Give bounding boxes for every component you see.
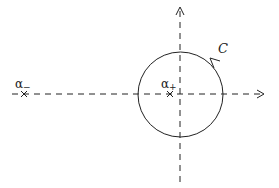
alpha-plus-subscript: + (169, 82, 177, 92)
diagram-canvas: α− α+ C (0, 0, 279, 188)
alpha-plus-symbol: α (161, 77, 169, 91)
alpha-minus-subscript: − (23, 82, 31, 92)
alpha-minus-label: α− (15, 78, 31, 90)
alpha-plus-label: α+ (161, 78, 177, 90)
contour-direction-arrow-icon (210, 58, 220, 68)
alpha-minus-symbol: α (15, 77, 23, 91)
contour-label: C (218, 42, 228, 55)
contour-diagram (0, 0, 279, 188)
